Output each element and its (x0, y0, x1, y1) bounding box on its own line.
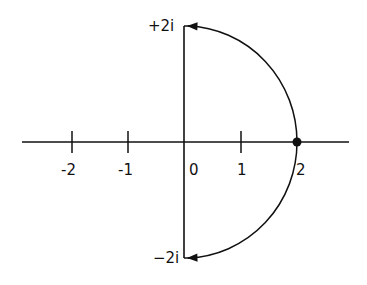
diagram-canvas: +2i −2i -2 -1 0 1 2 (0, 0, 367, 285)
tick-label-neg2: -2 (61, 163, 76, 178)
tick-label-neg1: -1 (118, 163, 133, 178)
upper-arc (188, 26, 297, 142)
marked-point-dot (293, 138, 302, 147)
label-minus-2i: −2i (153, 251, 179, 266)
tick-label-0: 0 (189, 163, 199, 178)
label-plus-2i: +2i (148, 19, 174, 34)
tick-label-2: 2 (296, 163, 306, 178)
lower-arc (188, 142, 297, 258)
tick-label-1: 1 (237, 163, 247, 178)
complex-plane-svg (0, 0, 367, 285)
